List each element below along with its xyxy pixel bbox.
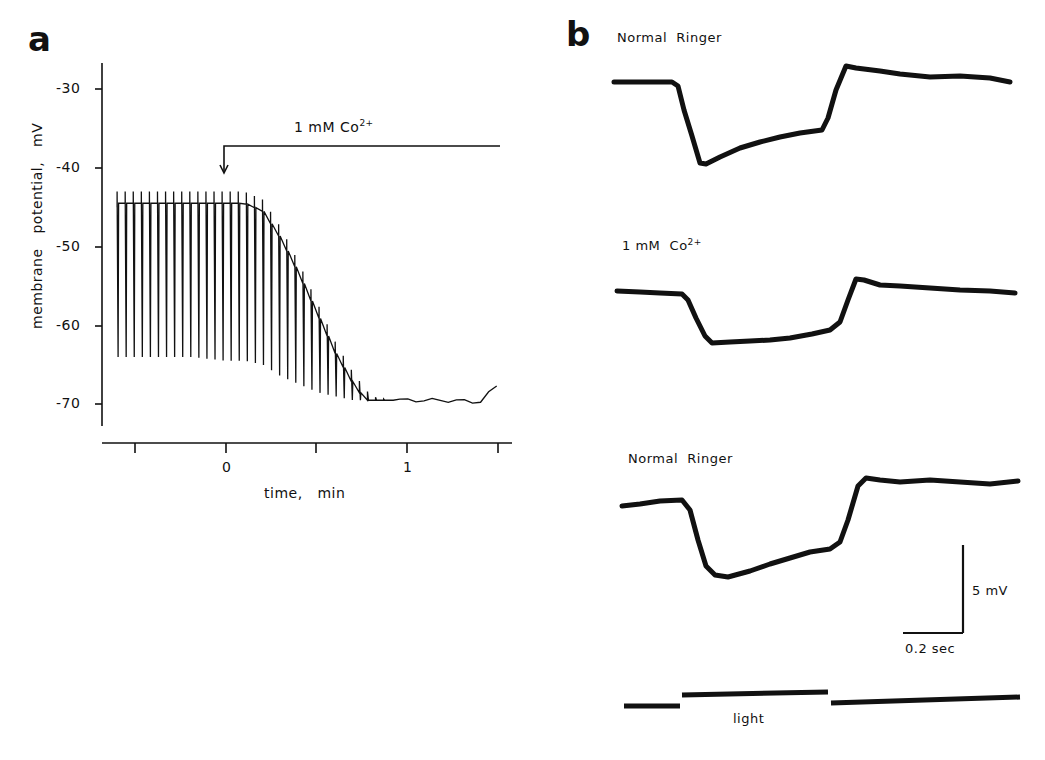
scale-voltage-label: 5 mV (972, 583, 1008, 598)
scale-time-label: 0.2 sec (905, 641, 955, 656)
light-label: light (733, 711, 764, 726)
trace-normal-1 (614, 66, 1010, 164)
trace-normal-3 (622, 478, 1018, 577)
trace-cobalt (617, 279, 1015, 343)
panel-b-traces (0, 0, 1045, 760)
